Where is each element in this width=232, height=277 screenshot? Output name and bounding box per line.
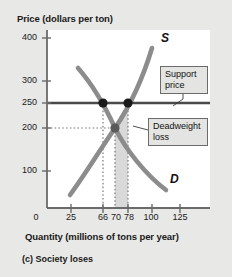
marker-equilibrium [110,123,119,132]
y-tick-label-250: 250 [11,97,37,107]
figure-caption: (c) Society loses [22,254,93,264]
deadweight-loss-annotation: Deadweight loss [148,118,208,146]
y-tick-label-100: 100 [11,165,37,175]
demand-curve-label: D [170,172,179,186]
y-tick-label-300: 300 [11,75,37,85]
support-price-annotation-line1: Support [165,69,204,80]
x-tick-label-78: 78 [117,212,141,222]
marker-quantity-demanded [98,98,107,107]
deadweight-loss-annotation-line2: loss [153,132,204,143]
support-price-annotation: Support price [160,66,208,94]
x-tick-label-100: 100 [139,212,163,222]
x-axis-title: Quantity (millions of tons per year) [25,231,179,242]
x-tick-label-0: 0 [24,212,48,222]
supply-curve-label: S [161,31,169,45]
marker-quantity-supplied [123,98,132,107]
support-price-annotation-line2: price [165,80,204,91]
y-tick-label-200: 200 [11,122,37,132]
y-tick-label-400: 400 [11,32,37,42]
x-tick-label-125: 125 [168,212,192,222]
y-axis-title: Price (dollars per ton) [17,13,113,24]
economics-figure: Price (dollars per ton) Quantity (millio… [0,0,232,277]
deadweight-loss-annotation-line1: Deadweight [153,121,204,132]
x-tick-label-25: 25 [59,212,83,222]
